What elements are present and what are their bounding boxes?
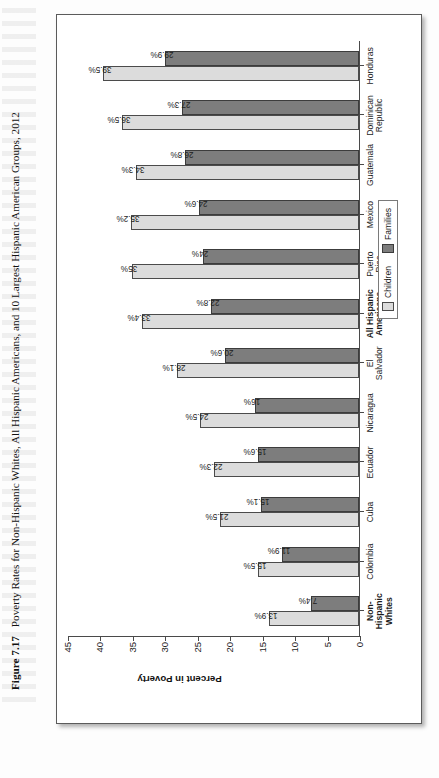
bar-value-label: 11.9% [267,554,290,563]
y-axis-tick-mark [198,636,199,641]
bar-group: 28.1%20.6%ElSalvador [68,339,359,389]
y-axis-label: Percent in Poverty [120,674,240,685]
legend-swatch-families [382,244,394,253]
bar-families: 29.9% [165,51,359,66]
y-axis-tick-label: 40 [94,642,105,670]
bar-group: 22.3%15.6%Ecuador [68,438,359,488]
bar-value-label: 20.6% [211,356,234,365]
bar-children: 34.3% [136,165,359,180]
bar-value-label: 35% [121,272,137,281]
bar-value-label: 35.2% [116,222,139,231]
bar-group: 35%24%PuertoRico [68,239,359,289]
x-axis-tick-mark [359,65,364,66]
bar-families: 16% [255,398,359,413]
bar-families: 15.1% [261,497,359,512]
bar-group: 34.3%26.8%Guatemala [68,140,359,190]
figure-number: Figure 7.17 [8,636,22,690]
bar-group: 39.5%29.9%Honduras [68,41,359,91]
bar-families: 27.3% [182,100,359,115]
bar-value-label: 7.4% [299,604,318,613]
x-axis-tick-mark [359,214,364,215]
bar-families: 11.9% [282,547,359,562]
bar-group: 15.5%11.9%Colombia [68,537,359,587]
x-axis-tick-mark [359,114,364,115]
bar-value-label: 33.4% [128,321,151,330]
bar-group: 21.5%15.1%Cuba [68,487,359,537]
bar-value-label: 24.6% [185,207,208,216]
x-axis-tick-mark [359,511,364,512]
bar-children: 28.1% [177,363,359,378]
x-axis-category-label: Honduras [366,34,375,98]
y-axis-tick-mark [100,636,101,641]
bar-children: 24.5% [200,413,359,428]
bar-children: 22.3% [214,462,359,477]
figure-title: Poverty Rates for Non-Hispanic Whites, A… [8,112,22,627]
x-axis-tick-mark [359,263,364,264]
y-axis-tick-mark [328,636,329,641]
bar-value-label: 24.5% [185,420,208,429]
bar-value-label: 29.9% [150,58,173,67]
y-axis-tick-label: 5 [322,642,333,670]
figure-caption: Figure 7.17 Poverty Rates for Non-Hispan… [8,0,52,690]
bar-families: 7.4% [311,596,359,611]
bar-value-label: 34.3% [122,173,145,182]
bar-children: 33.4% [142,314,359,329]
y-axis-tick-mark [230,636,231,641]
bar-group: 33.4%22.8%All HispanicAmericans [68,289,359,339]
bar-value-label: 24% [192,257,208,266]
x-axis-tick-mark [359,313,364,314]
x-axis-tick-mark [359,461,364,462]
plot-area: 13.9%7.4%Non-HispanicWhites15.5%11.9%Col… [68,41,360,637]
bar-families: 26.8% [185,150,359,165]
bar-value-label: 13.9% [254,619,277,628]
legend-item-families: Families [382,208,394,253]
bar-value-label: 26.8% [171,158,194,167]
x-axis-tick-mark [359,561,364,562]
bar-families: 24% [203,249,359,264]
legend-label-families: Families [383,208,393,240]
bar-children: 39.5% [103,66,359,81]
y-axis-tick-label: 20 [224,642,235,670]
bar-value-label: 15.1% [246,505,269,514]
figure-panel: Percent in Poverty 13.9%7.4%Non-Hispanic… [56,14,422,724]
chart-rotation-wrapper: Percent in Poverty 13.9%7.4%Non-Hispanic… [62,11,414,683]
bar-value-label: 22.3% [200,470,223,479]
bar-value-label: 22.8% [196,306,219,315]
y-axis-tick-label: 35 [127,642,138,670]
chart-legend: Children Families [378,200,398,319]
bar-families: 20.6% [225,348,359,363]
bar-children: 36.5% [122,115,359,130]
y-axis-tick-label: 15 [257,642,268,670]
y-axis-tick-label: 0 [354,642,365,670]
y-axis-tick-label: 10 [289,642,300,670]
x-axis-tick-mark [359,412,364,413]
bar-group: 13.9%7.4%Non-HispanicWhites [68,586,359,636]
y-axis-tick-mark [263,636,264,641]
legend-swatch-children [382,302,394,311]
bar-value-label: 39.5% [88,73,111,82]
bar-children: 13.9% [269,611,359,626]
x-axis-tick-mark [359,164,364,165]
bar-families: 15.6% [258,447,359,462]
bar-children: 35.2% [131,215,359,230]
bar-value-label: 28.1% [162,371,185,380]
y-axis-tick-mark [133,636,134,641]
bar-families: 24.6% [199,200,359,215]
bar-value-label: 21.5% [205,520,228,529]
bar-value-label: 15.5% [244,569,267,578]
bar-children: 21.5% [220,512,360,527]
bar-value-label: 36.5% [108,123,131,132]
y-axis-tick-label: 45 [62,642,73,670]
y-axis-tick-label: 30 [159,642,170,670]
bar-children: 15.5% [258,562,359,577]
y-axis-tick-label: 25 [192,642,203,670]
y-axis-tick-mark [68,636,69,641]
bar-value-label: 15.6% [243,455,266,464]
y-axis-tick-mark [295,636,296,641]
legend-label-children: Children [383,266,393,298]
bar-value-label: 16% [244,405,260,414]
bar-group: 36.5%27.3%DominicanRepublic [68,91,359,141]
y-axis-tick-mark [360,636,361,641]
y-axis-tick-mark [165,636,166,641]
bar-groups: 13.9%7.4%Non-HispanicWhites15.5%11.9%Col… [68,41,359,636]
